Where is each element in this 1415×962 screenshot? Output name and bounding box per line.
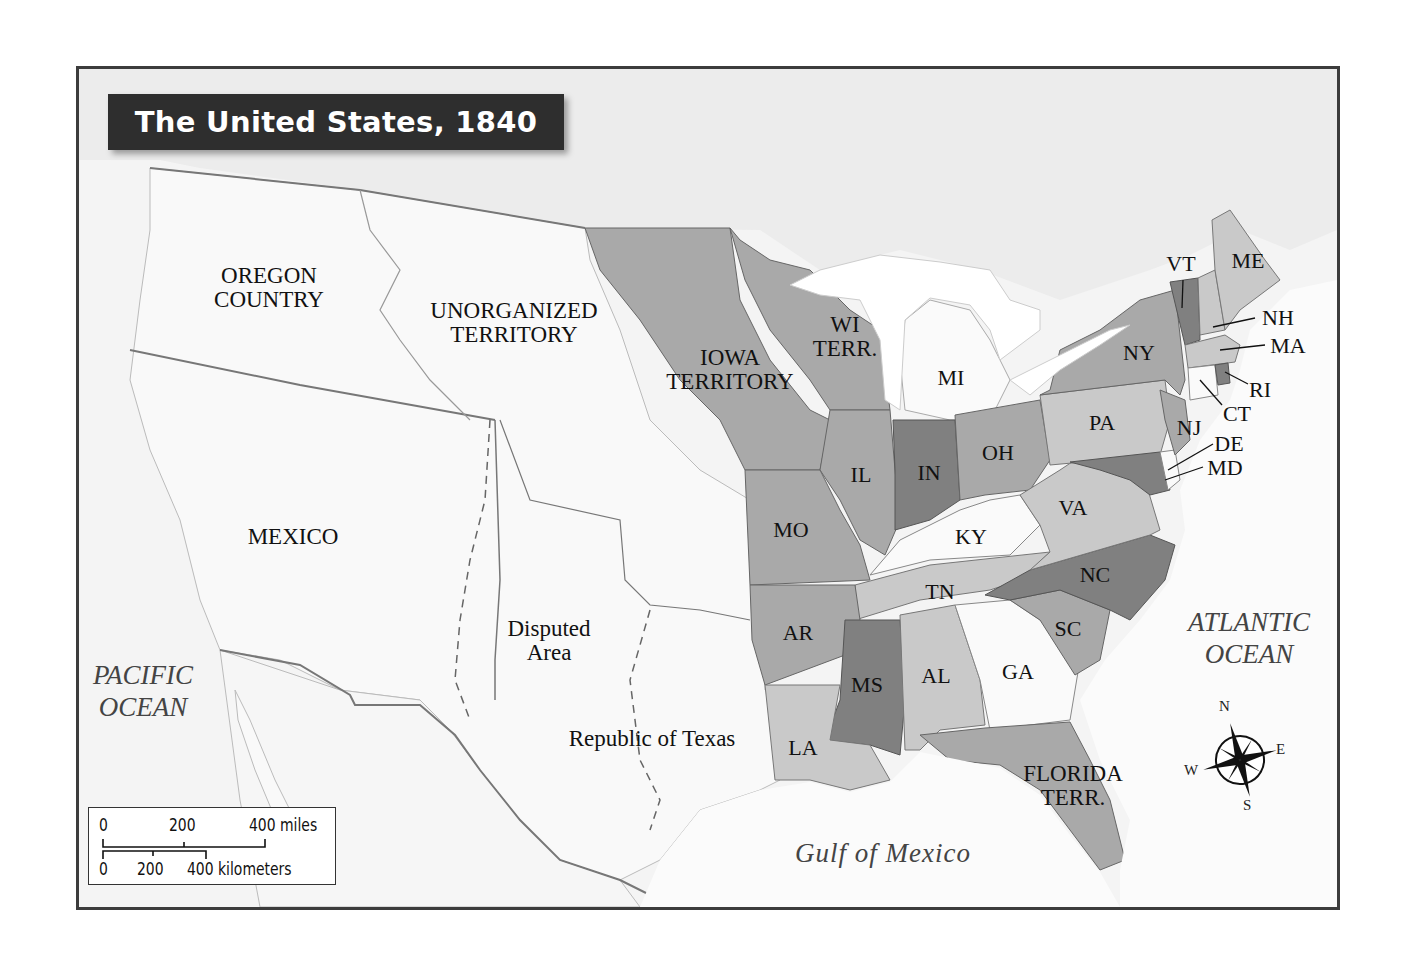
label-atlantic-ocean: ATLANTIC OCEAN [1188,606,1310,670]
compass-s: S [1243,797,1251,814]
map-title: The United States, 1840 [135,105,538,139]
label-nc: NC [1080,563,1111,587]
label-il: IL [851,463,872,487]
label-mi: MI [938,366,965,390]
label-pacific-ocean: PACIFIC OCEAN [93,659,193,723]
scale-km-0: 0 [99,859,108,879]
label-sc: SC [1055,617,1082,641]
label-oh: OH [982,441,1014,465]
label-unorganized-territory: UNORGANIZED TERRITORY [430,299,597,347]
label-al: AL [921,664,950,688]
label-gulf-of-mexico: Gulf of Mexico [795,837,971,869]
compass-e: E [1276,741,1285,758]
label-tn: TN [925,580,954,604]
label-ga: GA [1002,660,1034,684]
compass-rose-icon [1200,715,1280,805]
label-ct: CT [1223,402,1251,426]
label-oregon-country: OREGON COUNTRY [214,264,324,312]
label-mo: MO [773,518,808,542]
label-ky: KY [955,525,987,549]
label-ms: MS [851,673,883,697]
label-nh: NH [1262,306,1294,330]
label-mexico: MEXICO [248,525,339,549]
compass-w: W [1184,762,1198,779]
label-in: IN [917,461,940,485]
label-nj: NJ [1177,416,1201,440]
label-pa: PA [1089,411,1115,435]
label-me: ME [1232,249,1265,273]
label-disputed-area: Disputed Area [507,617,590,665]
label-ar: AR [783,621,814,645]
scale-km-400: 400 kilometers [187,859,292,879]
label-iowa-territory: IOWA TERRITORY [666,346,793,394]
label-va: VA [1059,496,1088,520]
label-la: LA [788,736,817,760]
compass-n: N [1219,698,1230,715]
label-vt: VT [1166,252,1195,276]
map-title-box: The United States, 1840 [108,94,564,150]
label-ri: RI [1249,378,1271,402]
label-md: MD [1207,456,1242,480]
scale-km-200: 200 [137,859,164,879]
label-de: DE [1214,432,1243,456]
new-york [1040,290,1185,395]
label-republic-of-texas: Republic of Texas [569,727,736,751]
label-wisconsin-territory: WI TERR. [813,313,878,361]
label-ma: MA [1270,334,1305,358]
scale-bar: 0 200 400 miles 0 200 400 kilometers [88,807,336,885]
label-ny: NY [1123,341,1155,365]
label-florida-territory: FLORIDA TERR. [1023,762,1123,810]
